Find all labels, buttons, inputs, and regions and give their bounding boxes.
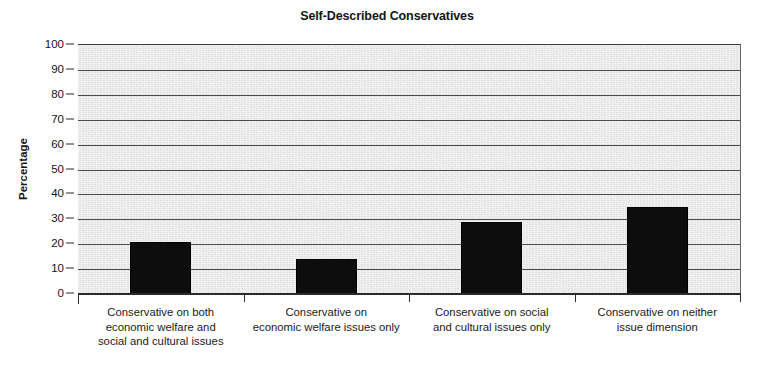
- bar: [627, 207, 688, 294]
- y-tick-label: 0: [58, 287, 64, 299]
- x-category-label-line: and cultural issues only: [409, 320, 575, 335]
- gridline: [78, 170, 740, 171]
- y-tick-mark: [66, 293, 74, 294]
- x-tick-mark: [409, 293, 410, 302]
- x-category-label-line: Conservative on social: [409, 305, 575, 320]
- x-category-label-line: social and cultural issues: [78, 334, 244, 349]
- x-tick-mark: [740, 293, 741, 302]
- y-tick-label: 100: [45, 38, 64, 50]
- y-axis-ticks: 0102030405060708090100: [0, 0, 78, 368]
- bar: [296, 259, 357, 294]
- x-category-label: Conservative on botheconomic welfare and…: [78, 305, 244, 349]
- y-tick-mark: [66, 268, 74, 269]
- y-tick-label: 70: [51, 113, 64, 125]
- y-tick-label: 80: [51, 88, 64, 100]
- y-tick-label: 20: [51, 237, 64, 249]
- gridline: [78, 145, 740, 146]
- gridline: [78, 95, 740, 96]
- x-category-label: Conservative on neitherissue dimension: [575, 305, 741, 334]
- x-category-label-line: economic welfare and: [78, 320, 244, 335]
- y-tick-mark: [66, 93, 74, 94]
- chart-figure: Self-Described Conservatives Percentage …: [0, 0, 774, 368]
- x-tick-mark: [78, 293, 79, 302]
- x-category-label-line: Conservative on both: [78, 305, 244, 320]
- chart-title: Self-Described Conservatives: [0, 9, 774, 23]
- gridline: [78, 70, 740, 71]
- y-tick-mark: [66, 68, 74, 69]
- y-tick-mark: [66, 143, 74, 144]
- gridline: [78, 120, 740, 121]
- x-category-label-line: economic welfare issues only: [244, 320, 410, 335]
- y-tick-label: 50: [51, 163, 64, 175]
- x-category-label-line: Conservative on neither: [575, 305, 741, 320]
- y-tick-label: 30: [51, 212, 64, 224]
- plot-area: [78, 44, 741, 294]
- x-tick-mark: [244, 293, 245, 302]
- x-category-label: Conservative oneconomic welfare issues o…: [244, 305, 410, 334]
- bar: [130, 242, 191, 294]
- y-tick-mark: [66, 193, 74, 194]
- y-tick-label: 60: [51, 138, 64, 150]
- x-category-label-line: Conservative on: [244, 305, 410, 320]
- bar: [461, 222, 522, 294]
- y-tick-mark: [66, 243, 74, 244]
- x-category-label-line: issue dimension: [575, 320, 741, 335]
- y-tick-label: 40: [51, 187, 64, 199]
- gridline: [78, 194, 740, 195]
- x-category-label: Conservative on socialand cultural issue…: [409, 305, 575, 334]
- y-tick-mark: [66, 118, 74, 119]
- y-tick-mark: [66, 168, 74, 169]
- x-tick-mark: [575, 293, 576, 302]
- y-tick-mark: [66, 44, 74, 45]
- y-tick-mark: [66, 218, 74, 219]
- y-tick-label: 90: [51, 63, 64, 75]
- y-tick-label: 10: [51, 262, 64, 274]
